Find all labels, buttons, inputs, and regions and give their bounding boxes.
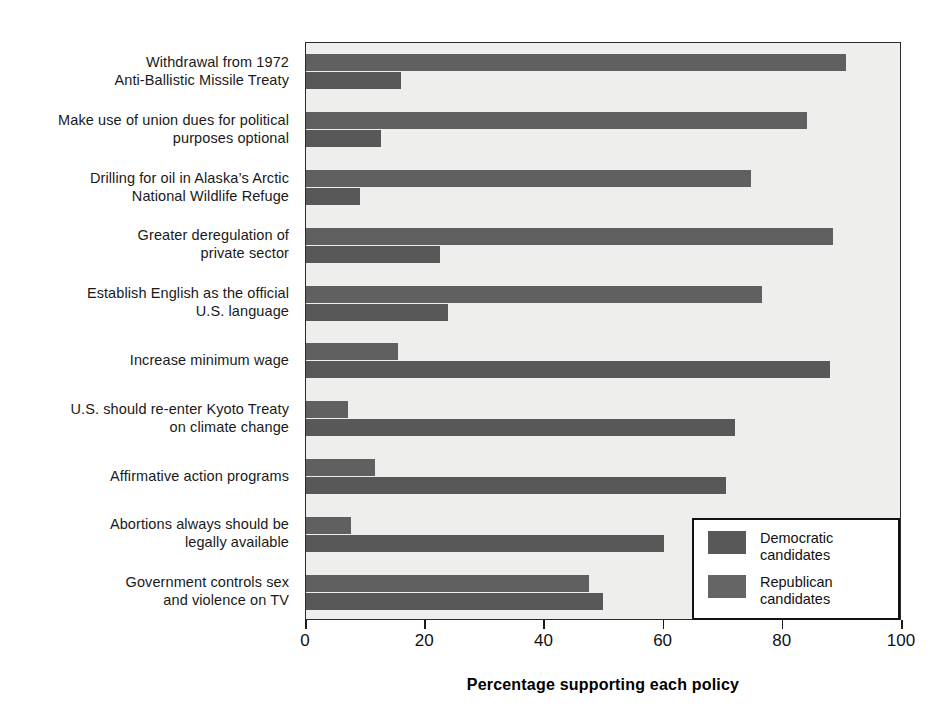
bar-democratic-9 [306, 593, 603, 610]
x-tick-80 [782, 620, 784, 629]
category-label-0-line0: Withdrawal from 1972 [0, 53, 289, 71]
category-label-9-line1: and violence on TV [0, 591, 289, 609]
category-label-3-line1: private sector [0, 244, 289, 262]
legend-label-republican-line1: Republican [760, 574, 833, 591]
x-tick-label-80: 80 [772, 631, 791, 651]
x-tick-20 [424, 620, 426, 629]
category-label-6-line0: U.S. should re-enter Kyoto Treaty [0, 400, 289, 418]
category-label-7-line0: Affirmative action programs [0, 467, 289, 485]
bar-republican-6 [306, 401, 348, 418]
legend-label-democratic-line1: Democratic [760, 530, 833, 547]
category-label-7: Affirmative action programs [0, 467, 289, 485]
bar-democratic-6 [306, 419, 735, 436]
category-label-1-line1: purposes optional [0, 129, 289, 147]
x-tick-label-40: 40 [534, 631, 553, 651]
category-label-0-line1: Anti-Ballistic Missile Treaty [0, 71, 289, 89]
x-tick-label-20: 20 [415, 631, 434, 651]
bar-republican-5 [306, 343, 398, 360]
category-label-6-line1: on climate change [0, 418, 289, 436]
category-label-9: Government controls sexand violence on T… [0, 573, 289, 609]
legend-label-democratic-line2: candidates [760, 547, 833, 564]
category-label-2-line1: National Wildlife Refuge [0, 187, 289, 205]
x-tick-0 [305, 620, 307, 629]
category-label-0: Withdrawal from 1972Anti-Ballistic Missi… [0, 53, 289, 89]
bar-democratic-8 [306, 535, 664, 552]
legend-label-republican: Republican candidates [760, 574, 833, 608]
category-label-5: Increase minimum wage [0, 351, 289, 369]
bar-democratic-5 [306, 361, 830, 378]
x-tick-label-60: 60 [653, 631, 672, 651]
legend-swatch-democratic-icon [708, 531, 746, 554]
category-label-8-line1: legally available [0, 533, 289, 551]
legend-label-democratic: Democratic candidates [760, 530, 833, 564]
category-label-5-line0: Increase minimum wage [0, 351, 289, 369]
category-label-6: U.S. should re-enter Kyoto Treatyon clim… [0, 400, 289, 436]
legend-item-republican: Republican candidates [708, 574, 898, 608]
category-label-3: Greater deregulation ofprivate sector [0, 226, 289, 262]
category-label-8: Abortions always should belegally availa… [0, 515, 289, 551]
category-label-3-line0: Greater deregulation of [0, 226, 289, 244]
bar-democratic-1 [306, 130, 381, 147]
bar-democratic-7 [306, 477, 726, 494]
legend-label-republican-line2: candidates [760, 591, 833, 608]
bar-democratic-0 [306, 72, 401, 89]
legend-swatch-republican-icon [708, 575, 746, 598]
bar-republican-9 [306, 575, 589, 592]
chart-legend: Democratic candidates Republican candida… [692, 518, 900, 620]
category-label-4-line0: Establish English as the official [0, 284, 289, 302]
bar-republican-8 [306, 517, 351, 534]
category-label-2-line0: Drilling for oil in Alaska’s Arctic [0, 169, 289, 187]
bar-republican-4 [306, 286, 762, 303]
category-label-4-line1: U.S. language [0, 302, 289, 320]
bar-republican-7 [306, 459, 375, 476]
category-label-1-line0: Make use of union dues for political [0, 111, 289, 129]
bar-democratic-3 [306, 246, 440, 263]
category-label-1: Make use of union dues for politicalpurp… [0, 111, 289, 147]
category-label-2: Drilling for oil in Alaska’s ArcticNatio… [0, 169, 289, 205]
x-tick-40 [543, 620, 545, 629]
x-tick-100 [901, 620, 903, 629]
x-axis-title: Percentage supporting each policy [305, 676, 901, 694]
bar-democratic-2 [306, 188, 360, 205]
category-labels: Withdrawal from 1972Anti-Ballistic Missi… [0, 42, 297, 620]
category-label-4: Establish English as the officialU.S. la… [0, 284, 289, 320]
bar-republican-0 [306, 54, 846, 71]
chart-figure: Withdrawal from 1972Anti-Ballistic Missi… [0, 0, 936, 721]
x-tick-label-0: 0 [300, 631, 309, 651]
legend-item-democratic: Democratic candidates [708, 530, 898, 564]
x-axis: 020406080100 [305, 620, 901, 660]
bar-republican-1 [306, 112, 807, 129]
x-tick-60 [663, 620, 665, 629]
category-label-9-line0: Government controls sex [0, 573, 289, 591]
bar-republican-3 [306, 228, 833, 245]
bar-republican-2 [306, 170, 751, 187]
x-tick-label-100: 100 [887, 631, 915, 651]
bar-democratic-4 [306, 304, 448, 321]
category-label-8-line0: Abortions always should be [0, 515, 289, 533]
